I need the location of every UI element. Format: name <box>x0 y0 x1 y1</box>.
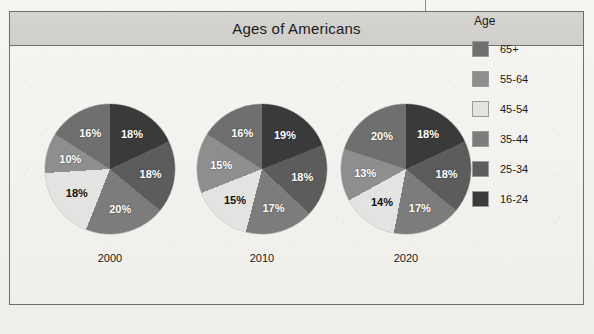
legend-item-label: 65+ <box>500 43 519 55</box>
pie-year-label: 2010 <box>202 252 322 264</box>
legend-item-label: 45-54 <box>500 103 528 115</box>
pie-slice-label: 18% <box>436 168 458 180</box>
legend-item[interactable]: 35-44 <box>472 127 572 151</box>
legend-item[interactable]: 16-24 <box>472 187 572 211</box>
legend-item-label: 35-44 <box>500 133 528 145</box>
pie-slice-label: 19% <box>274 129 296 141</box>
pie-slice-label: 16% <box>231 127 253 139</box>
page-body-text <box>22 300 574 330</box>
legend-swatch-icon <box>472 191 489 207</box>
legend-swatch-icon <box>472 71 489 87</box>
pie-slice-label: 14% <box>371 196 393 208</box>
legend-title: Age <box>472 14 572 28</box>
legend-swatch-icon <box>472 131 489 147</box>
legend-swatch-icon <box>472 41 489 57</box>
page-title: Ages of Americans <box>232 20 360 37</box>
pie-slice-label: 20% <box>109 203 131 215</box>
pie-chart-2000: 18%18%20%18%10%16% <box>45 104 175 234</box>
pie-slice-label: 18% <box>291 171 313 183</box>
pie-slice-label: 17% <box>262 202 284 214</box>
pie-chart-2020: 18%18%17%14%13%20% <box>341 104 471 234</box>
pie-slice-label: 10% <box>59 153 81 165</box>
pie-slice-label: 20% <box>371 130 393 142</box>
pie-slice-label: 18% <box>66 187 88 199</box>
legend: Age 65+55-6445-5435-4425-3416-24 <box>472 14 572 217</box>
legend-item[interactable]: 45-54 <box>472 97 572 121</box>
pie-slice-label: 17% <box>409 202 431 214</box>
legend-swatch-icon <box>472 161 489 177</box>
legend-item[interactable]: 55-64 <box>472 67 572 91</box>
pie-slice-label: 18% <box>417 128 439 140</box>
pie-year-label: 2000 <box>50 252 170 264</box>
pie-year-label: 2020 <box>346 252 466 264</box>
legend-item-label: 55-64 <box>500 73 528 85</box>
legend-item-label: 25-34 <box>500 163 528 175</box>
pie-slice-label: 15% <box>224 194 246 206</box>
pie-slice-label: 13% <box>354 167 376 179</box>
legend-item[interactable]: 65+ <box>472 37 572 61</box>
pie-slice-label: 15% <box>210 159 232 171</box>
pie-slice-label: 16% <box>79 127 101 139</box>
pie-chart-2010: 19%18%17%15%15%16% <box>197 104 327 234</box>
pie-slice-label: 18% <box>121 128 143 140</box>
legend-swatch-icon <box>472 101 489 117</box>
pie-slice-label: 18% <box>140 168 162 180</box>
legend-item[interactable]: 25-34 <box>472 157 572 181</box>
legend-item-label: 16-24 <box>500 193 528 205</box>
legend-rows: 65+55-6445-5435-4425-3416-24 <box>472 37 572 211</box>
